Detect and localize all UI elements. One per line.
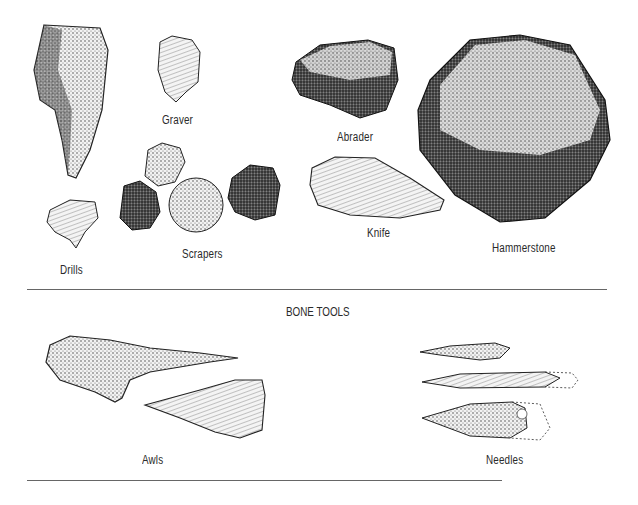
scraper-illustration-3 bbox=[169, 178, 223, 232]
label-needles: Needles bbox=[486, 453, 523, 467]
bone-tools-heading: BONE TOOLS bbox=[286, 305, 350, 319]
label-knife: Knife bbox=[367, 226, 390, 240]
label-graver: Graver bbox=[162, 113, 193, 127]
label-scrapers: Scrapers bbox=[182, 247, 223, 261]
knife-illustration bbox=[310, 157, 444, 218]
label-awls: Awls bbox=[142, 453, 163, 467]
needle-illustration-1 bbox=[420, 343, 510, 360]
scraper-illustration-4 bbox=[228, 165, 280, 220]
needle-illustration-3 bbox=[422, 402, 527, 438]
awl-illustration-2 bbox=[145, 380, 265, 438]
scraper-illustration-1 bbox=[145, 143, 185, 186]
drill-small-illustration bbox=[47, 200, 98, 248]
scraper-illustration-2 bbox=[120, 181, 160, 230]
bottom-divider bbox=[27, 480, 502, 481]
needle-illustration-2 bbox=[422, 372, 560, 388]
label-hammerstone: Hammerstone bbox=[492, 241, 556, 255]
section-divider bbox=[27, 289, 607, 290]
graver-illustration bbox=[158, 36, 200, 102]
label-abrader: Abrader bbox=[337, 130, 373, 144]
label-drills: Drills bbox=[60, 263, 83, 277]
